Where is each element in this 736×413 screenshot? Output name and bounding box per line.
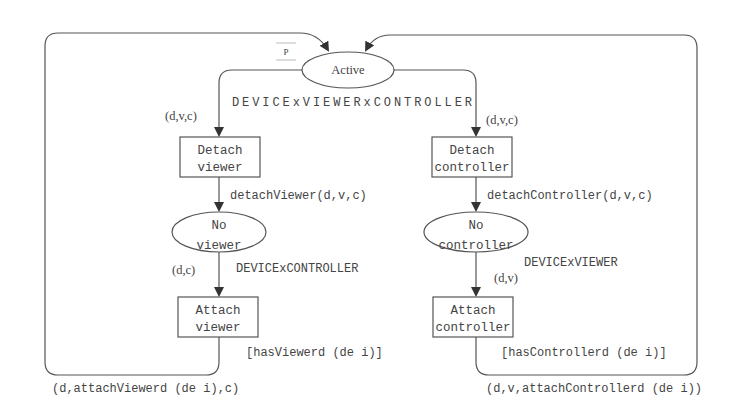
arc-label-active-detach-viewer: (d,v,c) bbox=[165, 109, 197, 123]
svg-text:viewer: viewer bbox=[196, 239, 241, 253]
color-set-no-viewer: DEVICExCONTROLLER bbox=[236, 262, 358, 276]
place-no-viewer[interactable]: No viewer bbox=[172, 212, 266, 253]
svg-text:Attach: Attach bbox=[450, 304, 495, 318]
place-active-label: Active bbox=[331, 63, 365, 77]
place-active[interactable]: Active bbox=[302, 52, 394, 88]
transition-attach-viewer[interactable]: Attach viewer bbox=[178, 297, 258, 337]
svg-text:viewer: viewer bbox=[195, 321, 240, 335]
svg-text:No: No bbox=[211, 219, 226, 233]
color-set-active: DEVICExVIEWERxCONTROLLER bbox=[232, 96, 472, 110]
guard-attach-viewer: [hasViewerd (de i)] bbox=[246, 346, 383, 360]
svg-text:Attach: Attach bbox=[195, 304, 240, 318]
svg-text:viewer: viewer bbox=[197, 161, 242, 175]
arc-label-attach-viewer-active: (d,attachViewerd (de i),c) bbox=[52, 382, 239, 396]
transition-detach-controller[interactable]: Detach controller bbox=[432, 137, 512, 177]
svg-text:controller: controller bbox=[435, 321, 510, 335]
svg-text:No: No bbox=[468, 219, 483, 233]
arc-label-active-detach-controller: (d,v,c) bbox=[486, 113, 518, 127]
marking-label: P bbox=[283, 47, 288, 57]
arc-label-no-controller-attach: (d,v) bbox=[494, 271, 518, 285]
guard-attach-controller: [hasControllerd (de i)] bbox=[501, 346, 667, 360]
place-no-controller[interactable]: No controller bbox=[424, 212, 528, 253]
svg-text:Detach: Detach bbox=[197, 144, 242, 158]
transition-detach-viewer[interactable]: Detach viewer bbox=[180, 137, 260, 177]
arc-label-detach-viewer: detachViewer(d,v,c) bbox=[230, 189, 367, 203]
transition-attach-controller[interactable]: Attach controller bbox=[433, 297, 513, 337]
petri-net-diagram: P Active DEVICExVIEWERxCONTROLLER Detach… bbox=[0, 0, 736, 413]
svg-text:controller: controller bbox=[438, 239, 513, 253]
svg-text:Detach: Detach bbox=[449, 144, 494, 158]
arc-label-attach-controller-active: (d,v,attachControllerd (de i)) bbox=[486, 382, 702, 396]
arc-attach-controller-to-active bbox=[366, 35, 697, 375]
svg-text:controller: controller bbox=[434, 161, 509, 175]
arc-label-no-viewer-attach: (d,c) bbox=[172, 263, 195, 277]
arc-label-detach-controller: detachController(d,v,c) bbox=[487, 189, 653, 203]
color-set-no-controller: DEVICExVIEWER bbox=[524, 256, 618, 270]
